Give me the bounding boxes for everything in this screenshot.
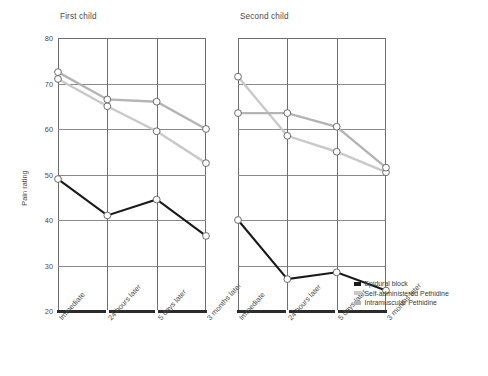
legend-item: Epidural block <box>354 279 449 289</box>
data-point-marker <box>104 103 111 110</box>
data-point-marker <box>55 69 62 76</box>
legend-label: Epidural block <box>365 279 408 289</box>
x-axis-tick-gap <box>286 310 289 313</box>
panel-first-child: First child Pain rating 20304050607080 I… <box>0 0 244 376</box>
panel-title-second-child: Second child <box>240 12 289 21</box>
legend: Epidural blockSelf-administered Pethidin… <box>354 279 449 308</box>
y-tick-label: 60 <box>45 125 53 134</box>
data-point-marker <box>203 233 210 240</box>
data-point-marker <box>235 73 242 80</box>
data-point-marker <box>153 98 160 105</box>
data-point-marker <box>153 128 160 135</box>
y-tick-label: 50 <box>45 170 53 179</box>
x-axis-tick-gap <box>155 310 158 313</box>
data-point-marker <box>55 176 62 183</box>
data-point-marker <box>153 196 160 203</box>
x-axis-tick-gap <box>335 310 338 313</box>
data-point-marker <box>104 96 111 103</box>
plot-area-second-child: Immediate24 hours later5 days later3 mon… <box>238 38 386 311</box>
legend-item: Self-administered Pethidine <box>354 289 449 299</box>
x-axis-line <box>57 310 207 313</box>
gridline-horizontal <box>58 266 206 267</box>
data-point-marker <box>383 164 390 171</box>
series-line <box>58 72 206 129</box>
plot-area-first-child: 20304050607080 Immediate24 hours later5 … <box>58 38 206 311</box>
y-tick-label: 40 <box>45 216 53 225</box>
data-point-marker <box>235 217 242 224</box>
series-layer <box>238 38 488 188</box>
data-point-marker <box>333 123 340 130</box>
data-point-marker <box>284 276 291 283</box>
series-line <box>238 77 386 173</box>
legend-swatch-icon <box>354 282 361 286</box>
y-axis-label: Pain rating <box>20 170 29 205</box>
legend-label: Self-administered Pethidine <box>365 289 449 299</box>
y-tick-label: 70 <box>45 79 53 88</box>
data-point-marker <box>235 110 242 117</box>
legend-swatch-icon <box>354 301 361 305</box>
gridline-horizontal <box>238 220 386 221</box>
data-point-marker <box>203 160 210 167</box>
panel-second-child: Second child Immediate24 hours later5 da… <box>212 0 456 376</box>
series-line <box>238 113 386 168</box>
legend-swatch-icon <box>354 291 361 295</box>
y-tick-label: 20 <box>45 307 53 316</box>
data-point-marker <box>333 148 340 155</box>
x-axis-tick-gap <box>106 310 109 313</box>
legend-item: Intramuscular Pethidine <box>354 298 449 308</box>
data-point-marker <box>55 76 62 83</box>
y-tick-label: 30 <box>45 261 53 270</box>
data-point-marker <box>203 126 210 133</box>
gridline-horizontal <box>238 266 386 267</box>
data-point-marker <box>333 269 340 276</box>
x-axis-line <box>237 310 387 313</box>
data-point-marker <box>104 212 111 219</box>
series-line <box>58 79 206 163</box>
legend-label: Intramuscular Pethidine <box>365 298 437 308</box>
panel-title-first-child: First child <box>60 12 97 21</box>
data-point-marker <box>284 132 291 139</box>
data-point-marker <box>284 110 291 117</box>
pain-rating-figure: First child Pain rating 20304050607080 I… <box>0 0 488 376</box>
y-tick-label: 80 <box>45 34 53 43</box>
